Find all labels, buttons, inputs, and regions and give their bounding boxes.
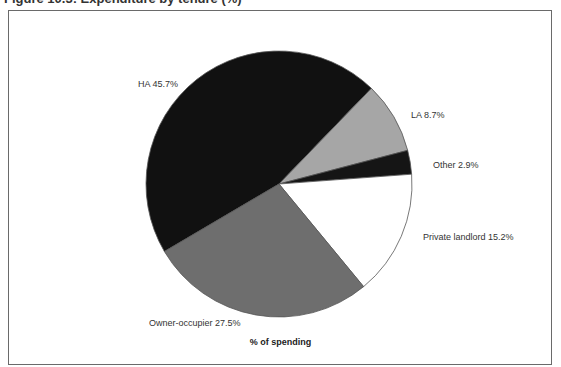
pie-slices [146,51,412,317]
label-owner-occupier: Owner-occupier 27.5% [149,318,241,328]
x-axis-label: % of spending [0,337,561,347]
label-ha: HA 45.7% [138,79,178,89]
label-private-landlord: Private landlord 15.2% [423,232,514,242]
label-la: LA 8.7% [411,110,445,120]
label-other: Other 2.9% [433,160,479,170]
pie-chart [0,0,561,367]
